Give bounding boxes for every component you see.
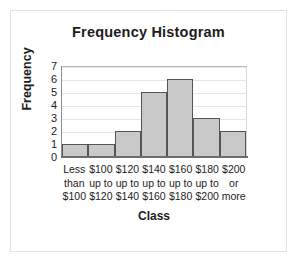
chart-title: Frequency Histogram bbox=[10, 24, 287, 40]
x-tick-line: than bbox=[61, 177, 88, 191]
x-tick-line: Less bbox=[61, 163, 88, 177]
y-tick-1: 1 bbox=[40, 139, 57, 150]
y-tick-5: 5 bbox=[40, 87, 57, 98]
y-tick-6: 6 bbox=[40, 74, 57, 85]
x-tick-line: $180 bbox=[194, 163, 221, 177]
bar bbox=[115, 131, 141, 157]
plot-area bbox=[61, 66, 247, 157]
x-tick-label: $180up to$200 bbox=[194, 163, 221, 204]
bar bbox=[220, 131, 246, 157]
bar-series bbox=[62, 67, 246, 157]
x-axis-tick-labels: Lessthan$100$100up to$120$120up to$140$1… bbox=[61, 163, 247, 204]
x-tick-line: up to bbox=[194, 177, 221, 191]
x-tick-line: $160 bbox=[167, 163, 194, 177]
y-tick-3: 3 bbox=[40, 113, 57, 124]
y-axis-label: Frequency bbox=[20, 34, 34, 124]
x-tick-line: $120 bbox=[88, 190, 115, 204]
bar-slot bbox=[141, 67, 167, 157]
x-tick-line: up to bbox=[167, 177, 194, 191]
bar-slot bbox=[167, 67, 193, 157]
x-tick-line: $120 bbox=[114, 163, 141, 177]
x-tick-line: $140 bbox=[141, 163, 168, 177]
bar bbox=[193, 118, 219, 157]
y-tick-7: 7 bbox=[40, 61, 57, 72]
bar bbox=[141, 92, 167, 157]
x-tick-line: up to bbox=[114, 177, 141, 191]
y-tick-2: 2 bbox=[40, 126, 57, 137]
x-tick-label: $200ormore bbox=[220, 163, 247, 204]
x-tick-label: $100up to$120 bbox=[88, 163, 115, 204]
x-tick-line: up to bbox=[88, 177, 115, 191]
x-tick-line: $100 bbox=[61, 190, 88, 204]
x-tick-line: $200 bbox=[220, 163, 247, 177]
y-axis-tick-labels: 01234567 bbox=[40, 58, 57, 165]
x-tick-line: $160 bbox=[141, 190, 168, 204]
x-tick-label: $160up to$180 bbox=[167, 163, 194, 204]
bar bbox=[167, 79, 193, 157]
x-tick-label: Lessthan$100 bbox=[61, 163, 88, 204]
x-axis-line bbox=[61, 156, 248, 158]
x-tick-label: $120up to$140 bbox=[114, 163, 141, 204]
bar-slot bbox=[115, 67, 141, 157]
x-tick-line: $180 bbox=[167, 190, 194, 204]
bar-slot bbox=[220, 67, 246, 157]
x-tick-label: $140up to$160 bbox=[141, 163, 168, 204]
y-tick-0: 0 bbox=[40, 152, 57, 163]
x-tick-line: $100 bbox=[88, 163, 115, 177]
x-tick-line: $140 bbox=[114, 190, 141, 204]
x-tick-line: or bbox=[220, 177, 247, 191]
x-axis-label: Class bbox=[61, 209, 247, 223]
y-tick-4: 4 bbox=[40, 100, 57, 111]
x-tick-line: $200 bbox=[194, 190, 221, 204]
bar-slot bbox=[193, 67, 219, 157]
bar-slot bbox=[62, 67, 88, 157]
histogram-figure: Frequency Histogram Frequency 01234567 L… bbox=[0, 0, 299, 264]
bar-slot bbox=[88, 67, 114, 157]
x-tick-line: more bbox=[220, 190, 247, 204]
x-tick-line: up to bbox=[141, 177, 168, 191]
